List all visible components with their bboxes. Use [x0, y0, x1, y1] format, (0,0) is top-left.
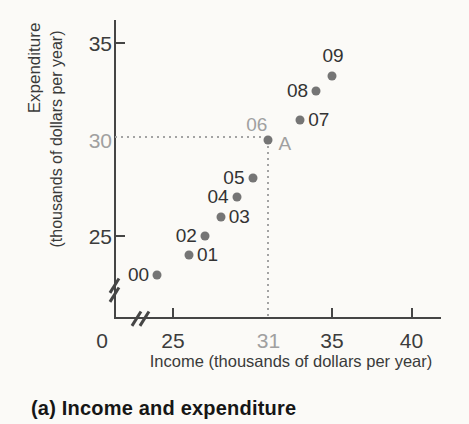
- figure-panel: 025313540353025 00010203040506070809A Ex…: [0, 0, 469, 424]
- data-point-label-04: 04: [207, 187, 228, 208]
- data-point-02: [200, 232, 209, 241]
- data-point-label-02: 02: [176, 226, 197, 247]
- data-point-01: [184, 251, 193, 260]
- data-point-05: [248, 174, 257, 183]
- data-point-label-07: 07: [308, 110, 329, 131]
- data-point-09: [328, 71, 337, 80]
- data-point-label-00: 00: [128, 264, 149, 285]
- data-point-label-08: 08: [287, 81, 308, 102]
- data-point-08: [312, 87, 321, 96]
- figure-caption: (a) Income and expenditure: [31, 397, 296, 420]
- annotation-label-a: A: [278, 133, 291, 154]
- data-point-label-06: 06: [246, 115, 267, 136]
- data-point-label-05: 05: [223, 168, 244, 189]
- data-point-00: [153, 270, 162, 279]
- data-point-label-03: 03: [229, 206, 250, 227]
- data-point-06: [264, 135, 273, 144]
- data-point-label-09: 09: [322, 46, 343, 67]
- data-point-07: [296, 116, 305, 125]
- data-point-03: [216, 212, 225, 221]
- x-axis-title: Income (thousands of dollars per year): [150, 352, 432, 371]
- y-axis-title-line1: Expenditure: [25, 23, 45, 114]
- data-point-label-01: 01: [197, 245, 218, 266]
- y-axis-title-line2: (thousands of dollars per year): [48, 31, 66, 248]
- data-point-04: [232, 193, 241, 202]
